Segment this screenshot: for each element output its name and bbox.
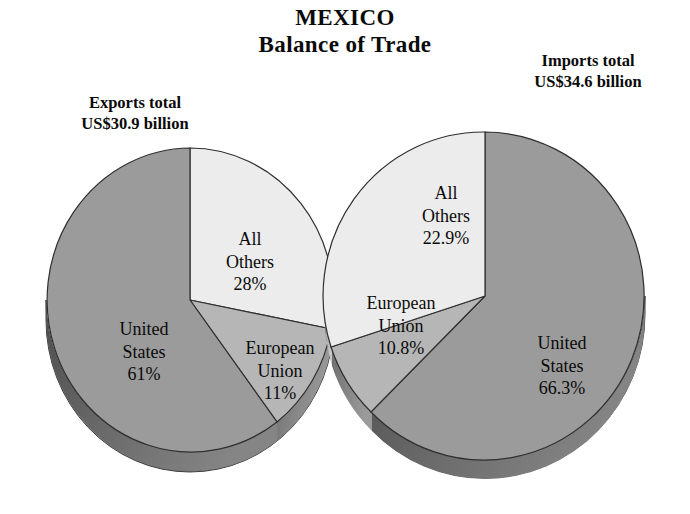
- pie-charts-canvas: [0, 0, 690, 514]
- exports-slice-all-others[interactable]: [190, 148, 334, 329]
- exports-pie: [46, 148, 334, 472]
- imports-pie: [323, 132, 645, 479]
- chart-page: MEXICO Balance of Trade Exports total US…: [0, 0, 690, 514]
